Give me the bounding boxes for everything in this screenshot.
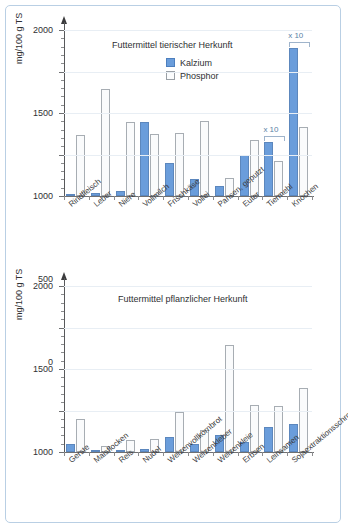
y-tick-minor — [61, 63, 64, 64]
y-tick-minor — [61, 38, 64, 39]
bar-kalzium — [165, 437, 174, 452]
y-tick-label: 1500 — [33, 108, 53, 118]
y-tick-minor — [61, 419, 64, 420]
y-tick-minor — [61, 47, 64, 48]
x-tick — [114, 196, 115, 200]
x-tick — [163, 452, 164, 456]
x-tick — [114, 452, 115, 456]
bar-kalzium — [215, 186, 224, 196]
gridline — [64, 411, 312, 412]
x-tick — [238, 452, 239, 456]
x-tick — [64, 452, 65, 456]
x-tick — [312, 452, 313, 456]
y-tick-label: 2000 — [33, 281, 53, 291]
y-tick-minor — [61, 138, 64, 139]
y-tick-minor — [61, 96, 64, 97]
x-tick — [64, 196, 65, 200]
y-tick-major: 2000 — [59, 30, 64, 31]
bar-kalzium — [140, 122, 149, 196]
y-tick-major: 1500 — [59, 328, 64, 329]
y-tick-minor — [61, 88, 64, 89]
plot-area-animal: 0500100015002000 — [64, 30, 312, 196]
y-tick-minor — [61, 336, 64, 337]
y-tick-minor — [61, 361, 64, 362]
y-tick-major: 2000 — [59, 286, 64, 287]
bar-kalzium — [289, 48, 298, 196]
y-tick-major: 500 — [59, 155, 64, 156]
x-tick — [287, 452, 288, 456]
y-tick-minor — [61, 435, 64, 436]
y-tick-minor — [61, 352, 64, 353]
x-tick — [89, 452, 90, 456]
y-axis-title-plant: mg/100 g TS — [14, 269, 24, 320]
y-tick-minor — [61, 377, 64, 378]
x10-annotation: x 10 — [263, 125, 278, 134]
y-tick-minor — [61, 303, 64, 304]
plot-area-plant: 0500100015002000 — [64, 286, 312, 452]
bar-phosphor — [200, 121, 209, 196]
figure-frame: Futtermittel tierischer Herkunft mg/100 … — [5, 5, 341, 523]
y-tick-minor — [61, 105, 64, 106]
bar-kalzium — [264, 142, 273, 196]
gridline — [64, 113, 312, 114]
y-tick-label: 1500 — [33, 364, 53, 374]
gridline — [64, 72, 312, 73]
x-tick — [238, 196, 239, 200]
y-tick-major: 500 — [59, 411, 64, 412]
y-tick-minor — [61, 55, 64, 56]
x-tick — [213, 196, 214, 200]
y-tick-major: 1000 — [59, 113, 64, 114]
chart-panel-plant: Futtermittel pflanzlicher Herkunft mg/10… — [6, 264, 342, 519]
x-tick — [89, 196, 90, 200]
y-axis-title-animal: mg/100 g TS — [14, 13, 24, 64]
gridline — [64, 155, 312, 156]
x-tick — [138, 196, 139, 200]
x-tick — [287, 196, 288, 200]
x-tick — [262, 452, 263, 456]
x-tick — [138, 452, 139, 456]
gridline — [64, 369, 312, 370]
bar-phosphor — [101, 89, 110, 196]
y-tick-minor — [61, 130, 64, 131]
y-tick-label: 2000 — [33, 25, 53, 35]
x-tick — [163, 196, 164, 200]
x-tick — [188, 452, 189, 456]
x-tick — [188, 196, 189, 200]
y-tick-minor — [61, 344, 64, 345]
x-tick — [213, 452, 214, 456]
y-tick-minor — [61, 319, 64, 320]
y-tick-minor — [61, 171, 64, 172]
bar-phosphor — [126, 122, 135, 196]
bar-phosphor — [299, 127, 308, 196]
x-tick — [262, 196, 263, 200]
y-tick-minor — [61, 311, 64, 312]
y-tick-minor — [61, 146, 64, 147]
y-tick-minor — [61, 121, 64, 122]
y-tick-minor — [61, 163, 64, 164]
y-tick-minor — [61, 294, 64, 295]
y-tick-minor — [61, 394, 64, 395]
y-tick-major: 1000 — [59, 369, 64, 370]
x10-annotation: x 10 — [288, 31, 303, 40]
chart-panel-animal: Futtermittel tierischer Herkunft mg/100 … — [6, 8, 342, 263]
y-tick-minor — [61, 427, 64, 428]
y-tick-minor — [61, 80, 64, 81]
x10-bracket — [264, 136, 285, 141]
y-tick-label: 1000 — [33, 191, 53, 201]
y-tick-minor — [61, 386, 64, 387]
gridline — [64, 328, 312, 329]
y-tick-minor — [61, 179, 64, 180]
y-tick-major: 1500 — [59, 72, 64, 73]
y-tick-label: 1000 — [33, 447, 53, 457]
x-tick — [312, 196, 313, 200]
gridline — [64, 286, 312, 287]
y-tick-minor — [61, 444, 64, 445]
gridline — [64, 30, 312, 31]
y-tick-minor — [61, 188, 64, 189]
x10-bracket — [289, 42, 310, 47]
y-tick-minor — [61, 402, 64, 403]
